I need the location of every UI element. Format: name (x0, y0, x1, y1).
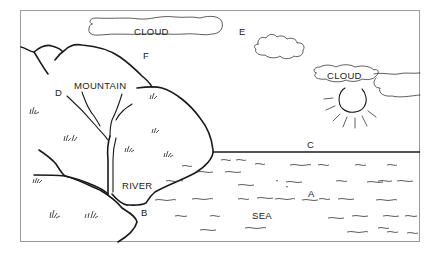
label-river: RIVER (122, 181, 153, 191)
river-source-branches (67, 92, 132, 140)
river-main-channel (108, 136, 127, 205)
grass-tufts (30, 93, 173, 218)
label-point-c: C (307, 140, 314, 150)
label-mountain: MOUNTAIN (74, 81, 126, 91)
river-inner-bank (113, 138, 116, 192)
label-sea: SEA (252, 211, 272, 221)
label-point-a: A (308, 189, 315, 199)
label-point-d: D (55, 88, 62, 98)
label-point-f: F (143, 51, 149, 61)
label-point-e: E (239, 27, 246, 37)
label-cloud-top: CLOUD (134, 27, 169, 37)
sun-icon (324, 88, 376, 128)
cloud-middle-shape (255, 34, 305, 58)
label-cloud-right: CLOUD (327, 71, 362, 81)
back-mountain-slope (34, 52, 48, 74)
cloud-bank-shape (374, 73, 420, 97)
sea-waves (155, 160, 418, 234)
label-point-b: B (141, 208, 148, 218)
diagram-drawing (0, 0, 441, 256)
river-tributary-left (39, 150, 108, 194)
landscape-diagram: CLOUD E F CLOUD MOUNTAIN D C RIVER A B S… (0, 0, 441, 256)
